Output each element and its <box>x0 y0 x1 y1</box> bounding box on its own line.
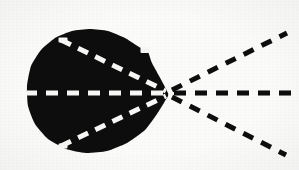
ray-diagram-canvas <box>0 0 299 170</box>
rim-notch-upper-right <box>141 47 150 53</box>
figure-root <box>0 0 299 170</box>
rim-notch-lower-left <box>59 144 68 149</box>
rim-notch-upper-left <box>59 38 68 43</box>
